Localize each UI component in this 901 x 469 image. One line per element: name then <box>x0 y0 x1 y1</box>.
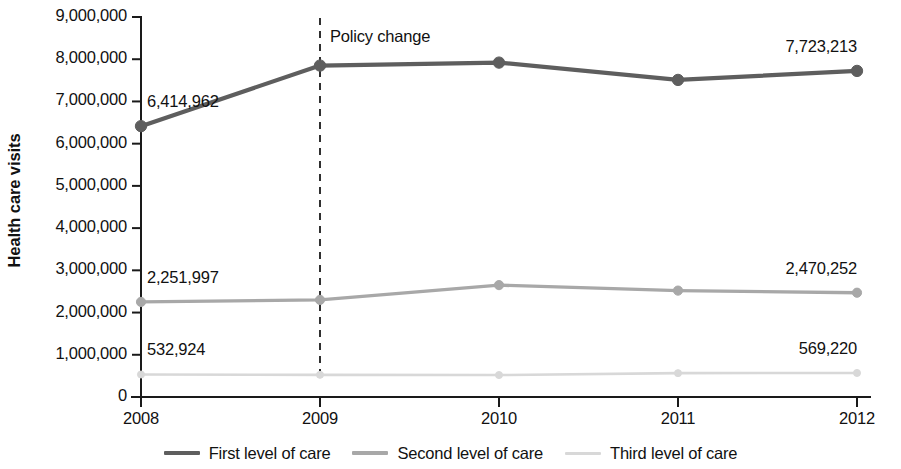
series-marker-2 <box>136 297 145 306</box>
x-axis-tick-label: 2010 <box>454 409 544 428</box>
line-chart: Health care visits 9,000,0008,000,0007,0… <box>0 0 901 469</box>
legend-item-1[interactable]: First level of care <box>164 444 331 463</box>
legend-item-3[interactable]: Third level of care <box>565 444 737 463</box>
legend-label: First level of care <box>209 444 331 463</box>
y-axis-tick-label: 1,000,000 <box>55 344 127 363</box>
series-line-1 <box>141 63 857 127</box>
x-axis-tick-label: 2012 <box>812 409 901 428</box>
y-axis-tick-label: 7,000,000 <box>55 90 127 109</box>
y-axis-tick-label: 8,000,000 <box>55 48 127 67</box>
y-axis-tick-label: 2,000,000 <box>55 302 127 321</box>
y-axis-tick-label: 4,000,000 <box>55 217 127 236</box>
series-start-value-label: 2,251,997 <box>147 268 219 287</box>
series-start-value-label: 6,414,962 <box>147 92 219 111</box>
legend-swatch-icon <box>352 451 388 455</box>
x-axis-tick-label: 2011 <box>633 409 723 428</box>
series-marker-1 <box>135 120 146 131</box>
series-marker-3 <box>137 371 144 378</box>
series-marker-1 <box>493 57 504 68</box>
chart-legend: First level of careSecond level of careT… <box>0 437 901 469</box>
plot-area <box>0 0 901 469</box>
series-start-value-label: 532,924 <box>147 340 205 359</box>
legend-swatch-icon <box>565 452 601 455</box>
series-marker-1 <box>851 65 862 76</box>
series-marker-2 <box>673 286 682 295</box>
y-axis-tick-label: 6,000,000 <box>55 133 127 152</box>
series-marker-1 <box>314 60 325 71</box>
legend-item-2[interactable]: Second level of care <box>352 444 543 463</box>
series-marker-2 <box>494 281 503 290</box>
series-end-value-label: 7,723,213 <box>761 37 857 56</box>
series-marker-2 <box>315 295 324 304</box>
policy-change-annotation-label: Policy change <box>330 27 430 46</box>
series-marker-2 <box>852 288 861 297</box>
x-axis-tick-label: 2008 <box>96 409 186 428</box>
series-marker-3 <box>495 372 502 379</box>
series-end-value-label: 2,470,252 <box>761 259 857 278</box>
y-axis-tick-label: 9,000,000 <box>55 6 127 25</box>
legend-label: Third level of care <box>610 444 737 463</box>
series-end-value-label: 569,220 <box>761 339 857 358</box>
series-marker-1 <box>672 74 683 85</box>
series-marker-3 <box>674 370 681 377</box>
y-axis-tick-label: 5,000,000 <box>55 175 127 194</box>
x-axis-tick-label: 2009 <box>275 409 365 428</box>
legend-label: Second level of care <box>397 444 543 463</box>
legend-swatch-icon <box>164 451 200 455</box>
y-axis-tick-label: 3,000,000 <box>55 259 127 278</box>
y-axis-tick-label: 0 <box>118 386 127 405</box>
series-marker-3 <box>853 369 860 376</box>
series-marker-3 <box>316 371 323 378</box>
